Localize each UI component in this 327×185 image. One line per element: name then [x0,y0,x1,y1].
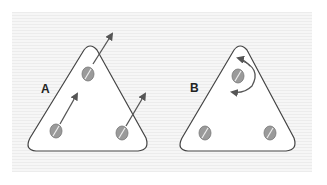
label-b: B [190,81,199,95]
screw-icon [50,124,62,138]
triangle-plate-a [28,46,147,151]
screw-icon [264,126,276,140]
screw-icon [82,67,94,81]
screw-icon [116,126,128,140]
screw-icon [232,69,244,83]
panel-a: A [28,34,147,151]
label-a: A [41,82,50,96]
diagram: A B [0,0,327,185]
panel-b: B [180,46,295,151]
triangle-plate-b [180,46,295,151]
screw-icon [199,126,211,140]
